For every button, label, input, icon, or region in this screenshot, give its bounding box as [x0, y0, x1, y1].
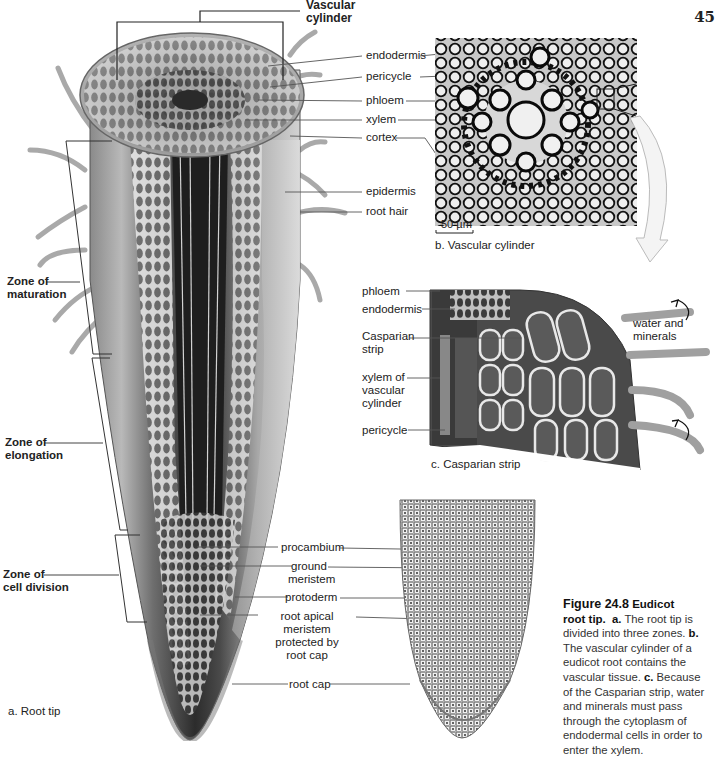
casparian-strip-illustration: [430, 290, 640, 472]
label-c-water-minerals: water and minerals: [633, 317, 684, 343]
vascular-cylinder-micrograph: [435, 38, 637, 233]
label-ground-meristem: ground meristem: [288, 560, 330, 586]
figure-caption: Figure 24.8 Eudicot root tip. a. The roo…: [563, 597, 713, 758]
label-root-hair: root hair: [366, 205, 408, 218]
label-c-phloem: phloem: [362, 285, 400, 298]
panel-b-caption: b. Vascular cylinder: [435, 239, 535, 252]
caption-marker-a: a.: [612, 613, 621, 625]
label-pericycle: pericycle: [366, 70, 411, 83]
figure-title-line2: root tip.: [563, 613, 606, 625]
caption-marker-b: b.: [689, 627, 699, 639]
label-protoderm: protoderm: [285, 591, 337, 604]
label-root-apical-meristem: root apical meristem protected by root c…: [259, 610, 355, 662]
figure-number: Figure 24.8: [563, 597, 629, 611]
label-zone-elongation: Zone of elongation: [5, 436, 63, 462]
label-c-xylem: xylem of vascular cylinder: [362, 371, 405, 410]
label-phloem: phloem: [366, 94, 404, 107]
label-epidermis: epidermis: [366, 185, 416, 198]
vascular-cylinder-heading: Vascular cylinder: [306, 0, 355, 25]
label-procambium: procambium: [281, 541, 344, 554]
panel-a-caption: a. Root tip: [8, 705, 60, 718]
label-c-casparian-strip: Casparian strip: [362, 330, 414, 356]
label-xylem: xylem: [366, 113, 396, 126]
label-endodermis: endodermis: [366, 49, 426, 62]
panel-c-caption: c. Casparian strip: [431, 458, 520, 471]
label-zone-cell-division: Zone of cell division: [3, 568, 69, 594]
label-c-pericycle: pericycle: [362, 424, 407, 437]
figure-title: Eudicot: [632, 598, 674, 610]
caption-marker-c: c.: [644, 671, 653, 683]
scale-bar-label: 50 µm: [441, 218, 472, 231]
label-cortex: cortex: [366, 131, 397, 144]
caption-text-c: Because of the Casparian strip, water an…: [563, 671, 704, 756]
page-number: 45: [694, 8, 715, 26]
label-root-cap: root cap: [289, 678, 331, 691]
longitudinal-section-micrograph: [400, 500, 535, 738]
label-zone-maturation: Zone of maturation: [7, 275, 66, 301]
label-c-endodermis: endodermis: [362, 303, 422, 316]
